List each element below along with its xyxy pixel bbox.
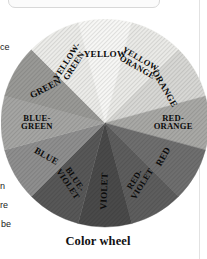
color-wheel-slice-label: BLUE-GREEN — [21, 113, 53, 132]
color-wheel-slice-label: VIOLET — [98, 172, 109, 209]
figure-caption: Color wheel — [0, 234, 196, 249]
color-wheel-chart: YELLOWYELLOW-ORANGEORANGERED-ORANGEREDRE… — [1, 19, 207, 228]
top-box-fragment — [8, 0, 160, 8]
color-wheel-figure: YELLOWYELLOW-ORANGEORANGERED-ORANGEREDRE… — [1, 19, 207, 228]
